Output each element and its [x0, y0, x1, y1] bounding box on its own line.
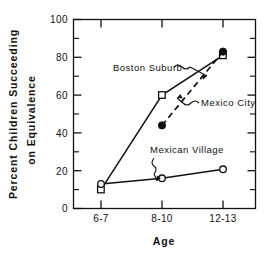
mexico-city-point-8-10 — [158, 122, 165, 129]
y-tick-label-80: 80 — [56, 52, 68, 63]
annotation-mexico-city-label: Mexico City — [201, 97, 256, 108]
y-axis-title-line1: Percent Children Succeeding — [7, 29, 19, 199]
y-tick-label-20: 20 — [56, 166, 68, 177]
squiggle-icon — [183, 101, 199, 105]
x-tick-label-12-13: 12-13 — [209, 213, 237, 224]
y-axis-minor-ticks — [74, 38, 80, 189]
line-chart: 0 20 40 60 80 100 6-7 8-10 12-13 Age Per… — [0, 0, 277, 258]
y-axis-title-line2: on Equivalence — [25, 75, 37, 165]
chart-figure: 0 20 40 60 80 100 6-7 8-10 12-13 Age Per… — [0, 0, 277, 258]
annotation-boston-suburb: Boston Suburb — [113, 62, 207, 79]
x-tick-label-6-7: 6-7 — [93, 213, 109, 224]
y-axis-right-ticks — [248, 38, 256, 189]
leader-line — [154, 174, 157, 181]
series-mexican-village — [98, 166, 227, 187]
mexican-village-point-12-13 — [220, 166, 227, 173]
series-mexico-city — [158, 48, 226, 129]
arrowhead-icon — [177, 94, 183, 98]
y-tick-label-40: 40 — [56, 128, 68, 139]
y-tick-label-0: 0 — [62, 203, 68, 214]
x-axis-title: Age — [153, 235, 176, 247]
annotation-boston-suburb-label: Boston Suburb — [113, 62, 182, 73]
boston-suburb-point-8-10 — [159, 92, 166, 99]
y-tick-label-100: 100 — [50, 14, 68, 25]
squiggle-icon — [152, 158, 156, 174]
mexico-city-point-12-13 — [219, 48, 226, 55]
annotation-mexican-village-label: Mexican Village — [150, 144, 224, 155]
x-tick-label-8-10: 8-10 — [151, 213, 173, 224]
y-tick-label-60: 60 — [56, 90, 68, 101]
mexican-village-point-6-7 — [98, 181, 105, 188]
annotation-mexico-city: Mexico City — [177, 94, 256, 108]
